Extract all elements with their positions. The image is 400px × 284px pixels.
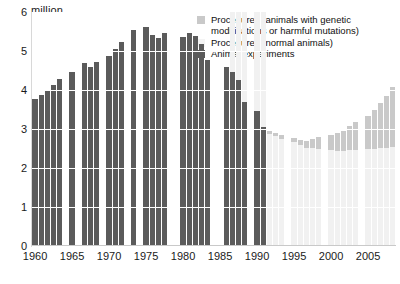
chart-legend: Procedures (animals with genetic modific…: [197, 14, 397, 60]
bar-1981: [187, 33, 192, 246]
bar-segment-experiments-1971: [113, 49, 118, 246]
bar-segment-experiments-1988: [236, 80, 241, 246]
x-tick-label-1990: 1990: [245, 250, 269, 262]
bar-segment-experiments-1987: [230, 72, 235, 246]
legend-label-genetic-line2-wrap: modifications or harmful mutations): [197, 25, 397, 36]
bar-segment-experiments-1964: [57, 79, 62, 246]
bar-1990: [254, 12, 259, 246]
legend-item-experiments: Animal experiments: [197, 48, 397, 59]
bar-segment-genetic-2006: [372, 110, 377, 148]
bar-segment-genetic-2005: [365, 116, 370, 149]
bar-2008: [384, 96, 389, 246]
bar-1967: [82, 63, 87, 246]
bar-segment-experiments-1974: [131, 30, 136, 246]
bar-segment-normal-2009: [390, 147, 395, 246]
bar-2004: [353, 122, 358, 246]
y-tick-label-3: 3: [5, 123, 27, 135]
bar-segment-experiments-1967: [82, 63, 87, 246]
x-tick-label-1995: 1995: [282, 250, 306, 262]
y-tick-label-1: 1: [5, 201, 27, 213]
bar-1972: [119, 42, 124, 246]
bar-segment-experiments-1980: [180, 37, 185, 246]
bar-segment-normal-1989: [242, 12, 247, 102]
chart-container: million 0123456 196019651970197519801985…: [0, 0, 400, 284]
bar-1974: [131, 30, 136, 246]
bar-segment-normal-1998: [310, 148, 315, 246]
bar-1965: [69, 72, 74, 246]
bar-segment-experiments-1969: [94, 62, 99, 246]
bar-1999: [316, 137, 321, 246]
bar-2001: [335, 133, 340, 246]
bar-1994: [279, 135, 284, 246]
bar-1980: [180, 37, 185, 246]
bar-segment-normal-2000: [328, 150, 333, 246]
x-tick-label-2000: 2000: [319, 250, 343, 262]
bar-1996: [298, 140, 303, 246]
bar-segment-genetic-2008: [384, 96, 389, 148]
axis-baseline: [32, 245, 396, 246]
bar-segment-experiments-1970: [106, 56, 111, 246]
bar-1968: [88, 67, 93, 246]
bar-segment-experiments-1981: [187, 33, 192, 246]
bar-segment-normal-2008: [384, 148, 389, 246]
bar-segment-experiments-1991: [261, 127, 266, 246]
bar-segment-normal-1990: [254, 12, 259, 111]
bar-1969: [94, 62, 99, 246]
bar-1995: [291, 138, 296, 246]
bar-1978: [162, 33, 167, 246]
x-tick-label-1980: 1980: [171, 250, 195, 262]
bar-segment-genetic-1998: [310, 139, 315, 148]
bar-segment-experiments-1961: [39, 95, 44, 246]
bar-1964: [57, 79, 62, 246]
legend-item-genetic: Procedures (animals with genetic: [197, 14, 397, 25]
bar-1963: [51, 85, 56, 246]
bar-segment-experiments-1972: [119, 42, 124, 246]
x-tick-label-2005: 2005: [356, 250, 380, 262]
bar-1989: [242, 12, 247, 246]
bar-segment-genetic-2004: [353, 122, 358, 150]
bar-segment-experiments-1976: [150, 35, 155, 246]
x-axis: 1960196519701975198019851990199520002005: [32, 248, 396, 268]
bar-segment-normal-2002: [341, 151, 346, 246]
bar-1991: [261, 12, 266, 246]
bar-segment-experiments-1984: [205, 60, 210, 246]
bar-segment-genetic-2003: [347, 126, 352, 150]
bar-segment-experiments-1963: [51, 85, 56, 246]
bar-segment-experiments-1978: [162, 33, 167, 246]
bar-segment-genetic-1999: [316, 137, 321, 149]
legend-swatch-genetic-icon: [197, 16, 205, 24]
y-tick-label-6: 6: [5, 6, 27, 18]
bar-segment-experiments-1983: [199, 44, 204, 246]
legend-item-normal: Procedures (normal animals): [197, 37, 397, 48]
x-tick-label-1975: 1975: [134, 250, 158, 262]
bar-segment-genetic-1997: [304, 141, 309, 148]
y-tick-label-2: 2: [5, 162, 27, 174]
bar-1992: [267, 131, 272, 246]
bar-1984: [205, 60, 210, 246]
bar-segment-normal-1997: [304, 148, 309, 246]
x-tick-label-1965: 1965: [60, 250, 84, 262]
bar-1970: [106, 56, 111, 246]
bar-segment-normal-1987: [230, 12, 235, 72]
bar-segment-genetic-2009: [390, 87, 395, 147]
bar-1998: [310, 139, 315, 246]
bar-segment-experiments-1982: [193, 36, 198, 246]
bar-segment-experiments-1986: [224, 67, 229, 246]
bar-1960: [32, 99, 37, 246]
bar-segment-experiments-1989: [242, 102, 247, 246]
bar-1986: [224, 67, 229, 246]
bar-segment-normal-1992: [267, 134, 272, 246]
bar-segment-genetic-2000: [328, 135, 333, 150]
bar-1975: [143, 27, 148, 246]
bar-2003: [347, 126, 352, 246]
bar-2002: [341, 131, 346, 246]
bar-segment-experiments-1977: [156, 38, 161, 246]
bar-1983: [199, 44, 204, 246]
bar-1962: [45, 91, 50, 246]
bar-1987: [230, 12, 235, 246]
bar-segment-normal-2001: [335, 151, 340, 246]
bar-segment-experiments-1975: [143, 27, 148, 246]
bar-segment-genetic-2002: [341, 131, 346, 152]
bar-segment-normal-1993: [273, 136, 278, 246]
y-tick-label-4: 4: [5, 84, 27, 96]
